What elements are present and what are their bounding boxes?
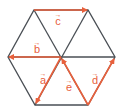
- vector-b-label: → b: [32, 40, 42, 55]
- vector-e-label: → e: [64, 78, 74, 93]
- hexagon-vector-diagram: → c → b → a → e → d: [0, 0, 119, 112]
- vector-a-label: → a: [38, 71, 48, 86]
- vector-c-label: → c: [53, 12, 63, 27]
- vector-d-label: → d: [90, 71, 100, 86]
